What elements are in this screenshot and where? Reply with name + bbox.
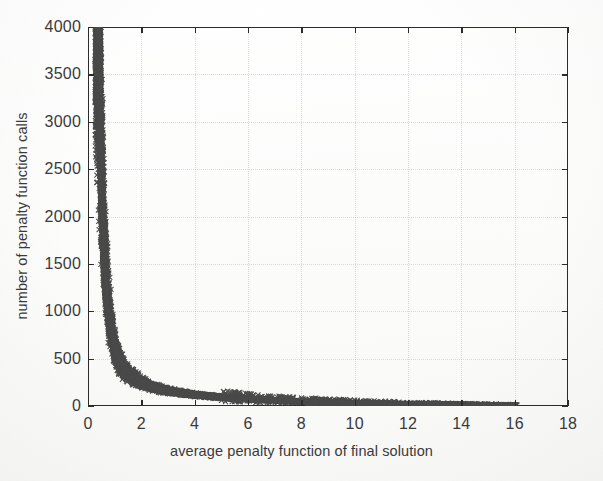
x-tick-label: 10: [346, 415, 364, 433]
y-tick-label: 3000: [45, 113, 81, 131]
y-tick-label: 1500: [45, 255, 81, 273]
x-tick-mark: [568, 400, 569, 406]
x-axis-label: average penalty function of final soluti…: [0, 443, 603, 459]
y-tick-mark: [88, 406, 94, 407]
y-tick-label: 500: [54, 350, 81, 368]
y-tick-label: 1000: [45, 302, 81, 320]
x-tick-mark: [568, 27, 569, 33]
y-tick-label: 0: [72, 397, 81, 415]
y-axis-label-wrap: number of penalty function calls: [14, 112, 30, 319]
figure-root: 024681012141618 050010001500200025003000…: [0, 0, 603, 481]
x-tick-label: 16: [506, 415, 524, 433]
y-tick-label: 2000: [45, 208, 81, 226]
plot-axes-frame: [88, 27, 568, 406]
x-tick-label: 18: [559, 415, 577, 433]
x-tick-label: 2: [137, 415, 146, 433]
x-tick-label: 12: [399, 415, 417, 433]
x-tick-label: 8: [297, 415, 306, 433]
x-tick-label: 14: [452, 415, 470, 433]
y-axis-label: number of penalty function calls: [14, 112, 30, 319]
y-tick-mark: [562, 406, 568, 407]
y-tick-label: 3500: [45, 65, 81, 83]
y-tick-label: 2500: [45, 160, 81, 178]
x-tick-label: 4: [190, 415, 199, 433]
x-tick-label: 6: [243, 415, 252, 433]
x-tick-label: 0: [83, 415, 92, 433]
y-tick-label: 4000: [45, 18, 81, 36]
